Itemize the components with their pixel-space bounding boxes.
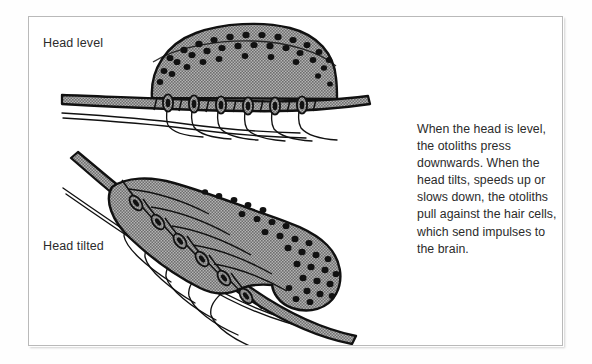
hair-cell — [163, 94, 173, 111]
hair-cell — [189, 95, 199, 112]
hair-cell — [270, 97, 280, 114]
hair-cell — [297, 96, 307, 113]
caption-text: When the head is level, the otoliths pre… — [417, 121, 557, 258]
head-tilted-diagram — [63, 152, 356, 349]
label-head-level: Head level — [43, 36, 103, 50]
hair-cell — [216, 96, 226, 113]
label-head-tilted: Head tilted — [43, 239, 104, 253]
hair-cell — [243, 97, 253, 114]
figure-root: Head level Head tilted When the head is … — [0, 0, 592, 364]
head-level-diagram — [62, 24, 370, 141]
